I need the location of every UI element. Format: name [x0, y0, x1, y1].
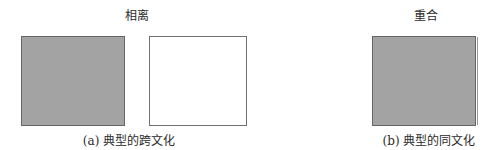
overlap-edge-line — [477, 37, 478, 125]
panel-a-title: 相离 — [118, 9, 156, 23]
panel-b-caption: (b) 典型的同文化 — [374, 134, 484, 148]
culture-a-rectangle — [21, 36, 125, 126]
overlapping-rectangle — [372, 36, 476, 126]
culture-b-rectangle — [149, 36, 247, 126]
panel-a-caption: (a) 典型的跨文化 — [74, 134, 184, 148]
panel-b-title: 重合 — [406, 9, 446, 23]
